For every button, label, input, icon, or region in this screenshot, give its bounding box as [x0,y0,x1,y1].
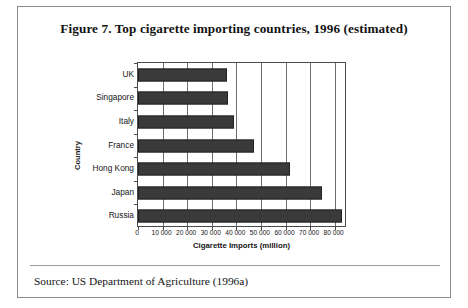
y-axis-tick-label: Italy [58,116,134,126]
y-axis-tick [134,204,138,205]
y-axis-tick-label: Singapore [58,92,134,102]
gridline [310,63,311,226]
x-axis-tick-label: 30 000 [201,229,221,236]
x-axis-tick-label: 60 000 [274,229,294,236]
bar [138,68,227,81]
bar [138,115,234,128]
y-axis-tick [134,63,138,64]
y-axis-tick-label: Hong Kong [58,163,134,173]
x-axis-tick-label: 80 000 [324,229,344,236]
source-note: Source: US Department of Agriculture (19… [34,275,248,287]
bar [138,163,290,176]
x-axis-tick-label: 70 000 [299,229,319,236]
y-axis-tick [134,110,138,111]
y-axis-tick [134,157,138,158]
y-axis-tick-label: Russia [58,210,134,220]
x-axis-tick-label: 20 000 [176,229,196,236]
bar [138,139,254,152]
bar-chart: Country RussiaJapanHong KongFranceItalyS… [18,47,452,252]
x-axis-tick-label: 40 000 [225,229,245,236]
x-axis-tick-label: 0 [135,229,139,236]
y-axis-tick-label: UK [58,69,134,79]
x-axis-tick-label: 50 000 [250,229,270,236]
y-axis-tick [134,87,138,88]
gridline [335,63,336,226]
figure-frame: Figure 7. Top cigarette importing countr… [17,6,451,298]
y-axis-tick [134,181,138,182]
bar [138,210,342,223]
gridline [261,63,262,226]
y-axis-tick [134,134,138,135]
caption-divider [30,265,440,266]
x-axis-tick-labels: 010 00020 00030 00040 00050 00060 00070 … [137,229,367,241]
y-axis-tick-label: France [58,140,134,150]
y-axis-tick-labels: RussiaJapanHong KongFranceItalySingapore… [58,62,134,227]
x-axis-tick-label: 10 000 [151,229,171,236]
plot-area [137,62,346,227]
gridline [286,63,287,226]
bar [138,92,228,105]
x-axis-title: Cigarette Imports (million) [137,241,346,250]
y-axis-tick-label: Japan [58,187,134,197]
bar [138,186,322,199]
figure-title: Figure 7. Top cigarette importing countr… [18,21,450,37]
